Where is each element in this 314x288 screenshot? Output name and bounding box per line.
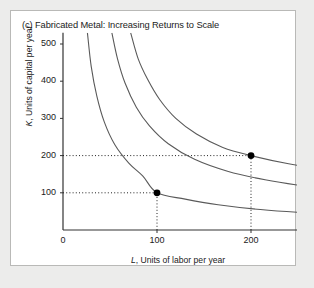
y-tick-label-200: 200 [26, 150, 56, 160]
y-tick-label-500: 500 [26, 38, 56, 48]
isoquant-curve-0 [87, 33, 297, 221]
plot-area: K, Units of capital per year L, Units of… [11, 11, 297, 267]
y-tick-label-100: 100 [26, 187, 56, 197]
point-a [154, 189, 161, 196]
x-tick-label-200: 200 [236, 235, 266, 245]
x-tick-label-0: 0 [48, 235, 78, 245]
chart-panel: (c) Fabricated Metal: Increasing Returns… [10, 10, 296, 266]
x-axis-label-text: , Units of labor per year [136, 255, 225, 265]
isoquant-chart-svg [11, 11, 297, 267]
x-tick-label-100: 100 [142, 235, 172, 245]
isoquant-curve-1 [112, 33, 297, 203]
y-tick-label-400: 400 [26, 75, 56, 85]
y-tick-label-300: 300 [26, 112, 56, 122]
point-b [248, 152, 255, 159]
x-axis-label: L, Units of labor per year [131, 249, 225, 267]
isoquant-curve-2 [131, 33, 297, 187]
